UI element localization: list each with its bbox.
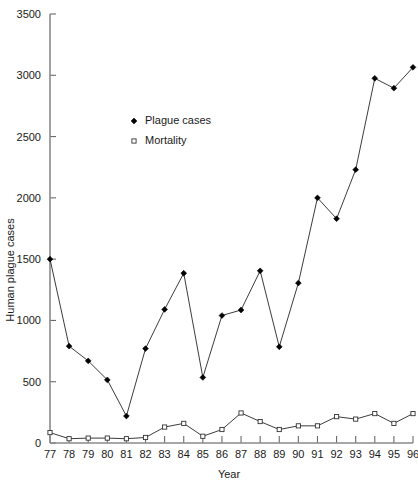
data-point xyxy=(296,424,300,428)
data-point xyxy=(257,268,263,274)
data-point xyxy=(220,427,224,431)
y-axis-title: Human plague cases xyxy=(4,218,16,322)
x-tick-label: 79 xyxy=(82,448,94,460)
data-point xyxy=(47,256,53,262)
legend-entry: Mortality xyxy=(132,134,187,146)
data-point xyxy=(277,427,281,431)
data-point xyxy=(353,167,359,173)
data-point xyxy=(258,419,262,423)
data-point xyxy=(295,280,301,286)
x-tick-label: 91 xyxy=(311,448,323,460)
x-tick-label: 81 xyxy=(120,448,132,460)
y-axis-tick-marks xyxy=(50,14,56,443)
legend-label: Mortality xyxy=(145,134,187,146)
x-tick-label: 85 xyxy=(197,448,209,460)
x-tick-label: 77 xyxy=(44,448,56,460)
series-line xyxy=(50,413,413,439)
x-tick-label: 92 xyxy=(330,448,342,460)
series-markers xyxy=(48,411,415,441)
data-point xyxy=(162,306,168,312)
x-tick-label: 87 xyxy=(235,448,247,460)
y-tick-label: 1500 xyxy=(17,253,41,265)
chart-figure: 0500100015002000250030003500 77787980818… xyxy=(0,0,418,484)
x-axis-tick-marks xyxy=(50,436,413,443)
y-tick-label: 0 xyxy=(35,437,41,449)
legend-marker xyxy=(131,118,137,124)
chart-legend: Plague casesMortality xyxy=(131,114,211,146)
data-point xyxy=(124,437,128,441)
data-point xyxy=(219,313,225,319)
x-axis-title: Year xyxy=(218,468,241,480)
series-1 xyxy=(47,64,416,419)
data-point xyxy=(372,75,378,81)
series-line xyxy=(50,67,413,416)
x-tick-label: 83 xyxy=(159,448,171,460)
legend-entry: Plague cases xyxy=(131,114,211,126)
x-tick-label: 89 xyxy=(273,448,285,460)
data-point xyxy=(163,425,167,429)
x-tick-label: 84 xyxy=(178,448,190,460)
y-tick-label: 1000 xyxy=(17,314,41,326)
x-tick-label: 78 xyxy=(63,448,75,460)
x-tick-label: 88 xyxy=(254,448,266,460)
data-point xyxy=(105,436,109,440)
series-2 xyxy=(48,411,415,441)
data-point xyxy=(392,421,396,425)
x-tick-label: 86 xyxy=(216,448,228,460)
y-axis-tick-labels: 0500100015002000250030003500 xyxy=(17,8,41,449)
x-axis-tick-labels: 7778798081828384858687888990919293949596 xyxy=(44,448,418,460)
legend-label: Plague cases xyxy=(145,114,212,126)
legend-marker xyxy=(132,139,136,143)
data-series-layer xyxy=(47,64,416,440)
data-point xyxy=(200,375,206,381)
line-chart: 0500100015002000250030003500 77787980818… xyxy=(0,0,418,484)
x-tick-label: 95 xyxy=(388,448,400,460)
data-point xyxy=(315,424,319,428)
y-tick-label: 2000 xyxy=(17,192,41,204)
data-point xyxy=(86,436,90,440)
data-point xyxy=(124,413,130,419)
data-point xyxy=(276,344,282,350)
data-point xyxy=(143,346,149,352)
x-tick-label: 90 xyxy=(292,448,304,460)
data-point xyxy=(48,430,52,434)
data-point xyxy=(334,415,338,419)
data-point xyxy=(143,435,147,439)
x-tick-label: 80 xyxy=(101,448,113,460)
x-tick-label: 94 xyxy=(369,448,381,460)
data-point xyxy=(181,270,187,276)
data-point xyxy=(354,417,358,421)
x-tick-label: 82 xyxy=(139,448,151,460)
data-point xyxy=(182,421,186,425)
data-point xyxy=(411,411,415,415)
series-markers xyxy=(47,64,416,419)
x-tick-label: 93 xyxy=(350,448,362,460)
data-point xyxy=(373,411,377,415)
y-tick-label: 500 xyxy=(23,376,41,388)
y-tick-label: 3500 xyxy=(17,8,41,20)
y-tick-label: 3000 xyxy=(17,69,41,81)
data-point xyxy=(201,434,205,438)
y-tick-label: 2500 xyxy=(17,131,41,143)
data-point xyxy=(67,437,71,441)
data-point xyxy=(239,411,243,415)
data-point xyxy=(238,307,244,313)
x-tick-label: 96 xyxy=(407,448,418,460)
